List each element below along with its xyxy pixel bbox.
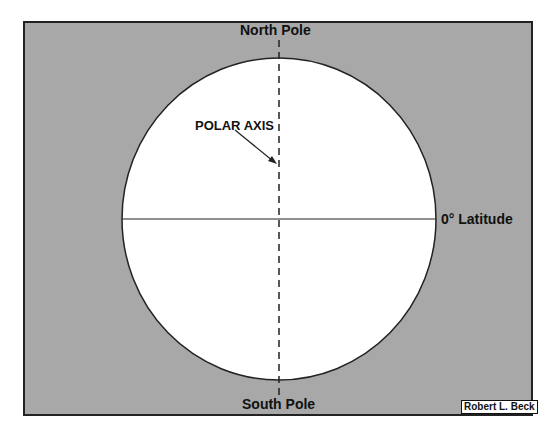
equator-label: 0° Latitude — [441, 211, 513, 227]
polar-axis-label: POLAR AXIS — [195, 118, 274, 133]
south-pole-label: South Pole — [242, 396, 315, 412]
credit-label: Robert L. Beck — [461, 400, 538, 414]
north-pole-label: North Pole — [240, 22, 311, 38]
